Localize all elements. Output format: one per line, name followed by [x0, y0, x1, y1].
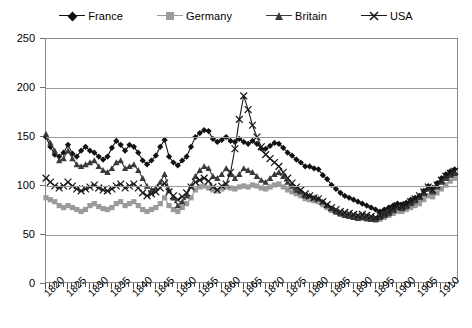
germany-legend-key	[157, 10, 183, 22]
usa-legend-key	[361, 10, 387, 22]
data-point-britain	[131, 161, 137, 167]
series-layer	[46, 39, 459, 284]
data-point-britain	[201, 163, 207, 169]
legend-label-germany: Germany	[186, 11, 232, 22]
data-point-britain	[117, 157, 123, 163]
y-axis: 250200150100500	[0, 0, 42, 328]
data-point-germany	[158, 201, 163, 206]
plot-area	[45, 38, 458, 283]
y-tick-label-250: 250	[17, 33, 35, 44]
data-point-usa	[275, 163, 282, 170]
legend-item-britain: Britain	[266, 10, 327, 22]
data-point-britain	[157, 179, 163, 185]
y-tick-label-100: 100	[17, 180, 35, 191]
gridline-200	[46, 88, 457, 89]
y-tick-label-200: 200	[17, 82, 35, 93]
data-point-britain	[91, 157, 97, 163]
legend-label-usa: USA	[390, 11, 413, 22]
y-tick-label-50: 50	[23, 229, 35, 240]
x-axis-labels: 1820182518301835184018451850185518601865…	[0, 283, 472, 328]
legend-item-usa: USA	[361, 10, 413, 22]
y-tick-label-150: 150	[17, 131, 35, 142]
gridline-100	[46, 186, 457, 187]
data-point-france	[188, 144, 194, 150]
data-point-britain	[241, 165, 247, 171]
legend-label-britain: Britain	[295, 11, 327, 22]
data-point-france	[109, 145, 115, 151]
britain-legend-key	[266, 10, 292, 22]
data-point-britain	[210, 173, 216, 179]
gridline-150	[46, 137, 457, 138]
usa-x-marker-icon	[369, 11, 379, 21]
legend-item-france: France	[59, 10, 123, 22]
data-point-france	[157, 144, 163, 150]
data-point-usa	[139, 189, 146, 196]
chart-legend: France Germany Britain USA	[0, 6, 472, 26]
data-point-usa	[205, 178, 212, 185]
france-legend-key	[59, 10, 85, 22]
data-point-france	[205, 128, 211, 134]
data-point-france	[65, 142, 71, 148]
legend-label-france: France	[88, 11, 123, 22]
data-point-germany	[162, 195, 167, 200]
legend-item-germany: Germany	[157, 10, 232, 22]
data-point-britain	[161, 171, 167, 177]
chart-container: France Germany Britain USA	[0, 0, 472, 328]
gridline-50	[46, 235, 457, 236]
data-point-britain	[43, 131, 49, 137]
data-point-usa	[245, 106, 252, 113]
data-point-britain	[139, 175, 145, 181]
series-germany	[43, 176, 457, 223]
data-point-usa	[249, 122, 256, 129]
